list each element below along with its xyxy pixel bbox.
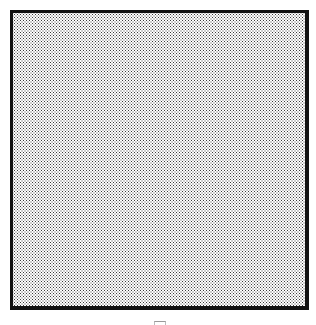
cropped-glyph-icon bbox=[154, 321, 166, 325]
dotted-pattern-canvas bbox=[10, 10, 309, 310]
